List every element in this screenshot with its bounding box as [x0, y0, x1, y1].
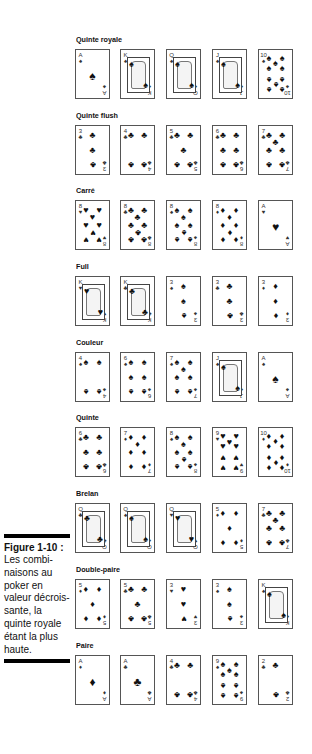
- heart-pip-icon: ♥: [94, 235, 104, 244]
- playing-card: A♣A♣♣: [120, 655, 155, 705]
- heart-pip-icon: ♥: [179, 585, 189, 594]
- playing-card: 7♣7♣♣♣♣♣♣♣♣: [258, 503, 293, 553]
- card-corner-index: A♥: [260, 203, 267, 215]
- spade-icon: ♠: [175, 60, 180, 69]
- club-icon: ♣: [122, 664, 129, 670]
- club-pip-icon: ♣: [264, 524, 274, 533]
- spade-pip-icon: ♠: [94, 358, 104, 367]
- spade-pip-icon: ♠: [271, 373, 281, 385]
- playing-card: 3♦3♦♦♦♦: [258, 276, 293, 326]
- card-corner-index: 3♥: [168, 582, 175, 594]
- spade-icon: ♠: [214, 588, 221, 594]
- card-corner-index: 3♣: [77, 128, 84, 140]
- hand-label: Quinte flush: [76, 111, 118, 120]
- club-icon: ♣: [146, 690, 153, 696]
- spade-pip-icon: ♠: [139, 358, 149, 367]
- spade-pip-icon: ♠: [185, 387, 195, 396]
- spade-icon: ♠: [143, 81, 148, 90]
- diamond-pip-icon: ♦: [231, 538, 241, 547]
- club-pip-icon: ♣: [277, 538, 287, 547]
- club-pip-icon: ♣: [133, 600, 143, 609]
- spade-pip-icon: ♠: [218, 691, 228, 700]
- spade-icon: ♠: [129, 60, 134, 69]
- club-pip-icon: ♣: [126, 235, 136, 244]
- playing-card: 3♣3♣♣♣♣: [75, 125, 110, 175]
- club-pip-icon: ♣: [218, 146, 228, 155]
- face-card-figure: ♠♠: [127, 511, 150, 547]
- diamond-pip-icon: ♦: [218, 235, 228, 244]
- diamond-pip-icon: ♦: [94, 614, 104, 623]
- club-icon: ♣: [129, 287, 135, 296]
- club-pip-icon: ♣: [88, 131, 98, 140]
- spade-icon: ♠: [235, 384, 240, 393]
- spade-pip-icon: ♠: [225, 666, 235, 675]
- face-card-figure: ♣♣: [127, 284, 150, 320]
- spade-pip-icon: ♠: [277, 64, 287, 73]
- card-corner-index: A♣: [146, 690, 153, 702]
- card-rank: A: [284, 241, 291, 247]
- playing-card: 8♠8♠♠♠♠♠♠♠♠♠: [166, 427, 201, 477]
- playing-card: 5♣5♣♣♣♣♣♣: [166, 125, 201, 175]
- caption-title: Figure 1-10 :: [4, 542, 70, 554]
- spade-pip-icon: ♠: [139, 387, 149, 396]
- playing-card: 7♣7♣♣♣♣♣♣♣♣: [258, 125, 293, 175]
- card-corner-index: 3♣: [101, 160, 108, 172]
- heart-pip-icon: ♥: [231, 453, 241, 462]
- spade-pip-icon: ♠: [88, 70, 98, 82]
- spade-pip-icon: ♠: [94, 387, 104, 396]
- playing-card: 4♠4♠♠♠♠♠: [75, 352, 110, 402]
- playing-card: Q♣Q♣♣♣: [75, 503, 110, 553]
- diamond-icon: ♦: [260, 285, 267, 291]
- heart-icon: ♥: [192, 614, 199, 620]
- club-pip-icon: ♣: [264, 146, 274, 155]
- card-rank: 3: [238, 620, 245, 626]
- diamond-pip-icon: ♦: [271, 297, 281, 306]
- club-icon: ♣: [284, 690, 291, 696]
- club-icon: ♣: [84, 514, 90, 523]
- hand-label: Full: [76, 262, 89, 271]
- spade-pip-icon: ♠: [225, 614, 235, 623]
- club-pip-icon: ♣: [231, 131, 241, 140]
- club-pip-icon: ♣: [81, 448, 91, 457]
- spade-pip-icon: ♠: [264, 85, 274, 94]
- heart-icon: ♥: [98, 308, 103, 317]
- heart-pip-icon: ♥: [231, 463, 241, 472]
- playing-card: 9♠9♠♠♠♠♠♠♠♠♠♠: [212, 655, 247, 705]
- club-pip-icon: ♣: [139, 131, 149, 140]
- card-corner-index: A♦: [77, 658, 84, 670]
- playing-card: 8♥8♥♥♥♥♥♥♥♥♥: [75, 200, 110, 250]
- card-rank: 3: [238, 317, 245, 323]
- face-card-figure: ♠♠: [173, 57, 196, 93]
- card-corner-index: 3♠: [168, 279, 175, 291]
- spade-icon: ♠: [77, 58, 84, 64]
- heart-icon: ♥: [168, 588, 175, 594]
- card-rank: A: [146, 696, 153, 702]
- club-pip-icon: ♣: [172, 131, 182, 140]
- face-card-figure: ♠♠: [219, 360, 242, 396]
- club-pip-icon: ♣: [139, 160, 149, 169]
- card-rank: A: [284, 393, 291, 399]
- diamond-pip-icon: ♦: [88, 676, 98, 688]
- playing-card: J♠J♠♠♠: [212, 49, 247, 99]
- spade-pip-icon: ♠: [172, 462, 182, 471]
- heart-icon: ♥: [84, 287, 89, 296]
- club-pip-icon: ♣: [139, 614, 149, 623]
- card-corner-index: A♠: [260, 355, 267, 367]
- face-card-figure: ♠♠: [127, 57, 150, 93]
- diamond-icon: ♦: [101, 690, 108, 696]
- club-pip-icon: ♣: [172, 690, 182, 699]
- club-pip-icon: ♣: [126, 160, 136, 169]
- playing-card: 5♦5♦♦♦♦♦♦: [75, 579, 110, 629]
- diamond-pip-icon: ♦: [271, 311, 281, 320]
- hand-label: Brelan: [76, 489, 98, 498]
- club-pip-icon: ♣: [133, 676, 143, 688]
- playing-card: 5♦5♦♦♦♦♦♦: [212, 503, 247, 553]
- face-card-figure: ♥♥: [82, 284, 105, 320]
- diamond-pip-icon: ♦: [264, 442, 274, 451]
- club-pip-icon: ♣: [81, 433, 91, 442]
- card-corner-index: 3♠: [214, 582, 221, 594]
- hand-label: Carré: [76, 186, 95, 195]
- face-card-figure: ♥♥: [173, 511, 196, 547]
- spade-pip-icon: ♠: [139, 373, 149, 382]
- spade-pip-icon: ♠: [185, 235, 195, 244]
